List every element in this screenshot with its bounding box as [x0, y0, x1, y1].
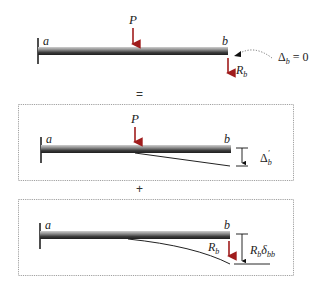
beam	[38, 47, 228, 55]
reaction-label: Rb	[207, 240, 219, 256]
deflection-zero-label: Δb = 0	[278, 50, 309, 66]
superposition-diagram: a b P Rb Δb = 0 = a b P	[0, 0, 319, 290]
reaction-arrow-Rb: Rb	[207, 240, 229, 256]
panel-frame	[19, 105, 294, 181]
deflected-shape	[135, 153, 230, 166]
plus-operator: +	[136, 182, 143, 196]
end-label-b: b	[224, 218, 230, 232]
load-label-P: P	[130, 111, 139, 126]
deflection-dimension: Δb′	[236, 148, 272, 167]
beam	[40, 231, 230, 239]
deflection-label: Rbδbb	[249, 243, 275, 259]
load-label-P: P	[128, 12, 137, 27]
panel-original: a b P Rb Δb = 0	[38, 12, 309, 79]
deflection-zero-callout: Δb = 0	[234, 50, 309, 66]
reaction-label: Rb	[235, 63, 247, 79]
support-label-a: a	[45, 218, 51, 232]
support-label-a: a	[46, 132, 52, 146]
panel-load-only: a b P Δb′	[19, 105, 294, 181]
panel-reaction-only: a b Rb Rbδbb	[19, 200, 294, 276]
beam	[41, 145, 231, 153]
end-label-b: b	[222, 34, 228, 48]
equals-operator: =	[136, 87, 143, 101]
deflection-dimension: Rbδbb	[234, 234, 275, 264]
load-arrow-P: P	[128, 12, 137, 44]
end-label-b: b	[224, 132, 230, 146]
pointer-arrow-icon	[234, 51, 241, 57]
reaction-arrow-Rb: Rb	[228, 58, 247, 79]
load-arrow-P: P	[130, 111, 139, 142]
deflection-label: Δb′	[260, 149, 272, 167]
support-label-a: a	[43, 34, 49, 48]
